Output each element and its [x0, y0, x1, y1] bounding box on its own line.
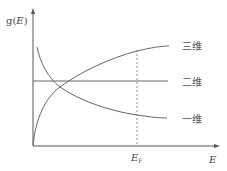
label-3d: 三维	[182, 40, 202, 52]
fermi-label: EF	[130, 152, 142, 164]
label-2d: 二维	[182, 76, 202, 88]
y-axis-label: g(E)	[6, 15, 28, 26]
label-1d: 一维	[182, 113, 202, 125]
density-of-states-diagram: g(E) E EF 三维 二维 一维	[0, 0, 227, 171]
curve-1d	[37, 47, 167, 118]
curve-3d	[33, 46, 169, 145]
x-axis-label: E	[208, 154, 217, 165]
x-axis-arrow-icon	[214, 144, 220, 148]
y-axis-arrow-icon	[31, 8, 35, 14]
